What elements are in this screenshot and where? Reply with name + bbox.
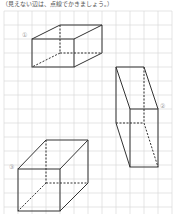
- grid-worksheet: ① ② ③: [0, 0, 179, 214]
- cuboid-3: [18, 140, 88, 211]
- cuboid-1: [32, 25, 102, 67]
- cuboid-2: [116, 67, 158, 167]
- shape-3-label: ③: [9, 163, 14, 170]
- shape-1-label: ①: [22, 31, 27, 38]
- shape-2-label: ②: [160, 102, 165, 109]
